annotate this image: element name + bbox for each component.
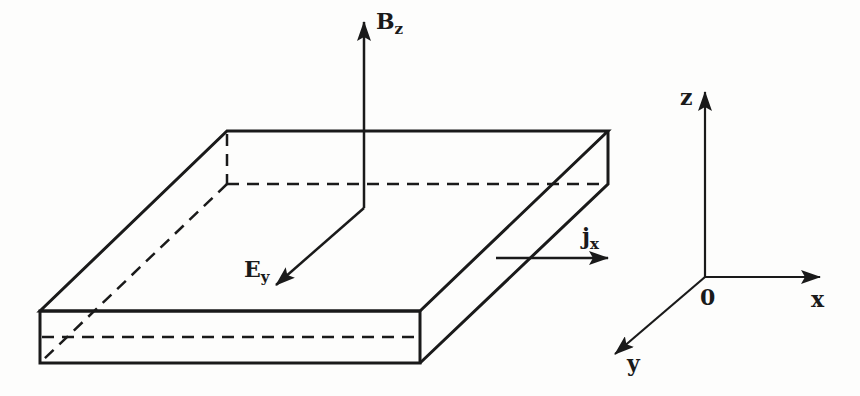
y-axis-label: y xyxy=(627,352,640,374)
x-axis-label: x xyxy=(811,288,824,310)
y-axis xyxy=(615,277,705,354)
ey-arrow xyxy=(276,208,364,285)
bz-label: Bz xyxy=(376,10,403,37)
diagram-drawing xyxy=(0,0,860,396)
jx-label: jx xyxy=(582,225,599,252)
ey-label: Ey xyxy=(244,258,270,285)
slab-visible-edges xyxy=(40,131,608,363)
slab-hidden-edges xyxy=(42,134,608,361)
origin-label: 0 xyxy=(700,286,715,308)
field-arrows xyxy=(276,22,608,285)
coordinate-axes xyxy=(615,92,820,354)
z-axis-label: z xyxy=(680,86,693,108)
hall-effect-diagram: Bz Ey jx z x y 0 xyxy=(0,0,860,396)
